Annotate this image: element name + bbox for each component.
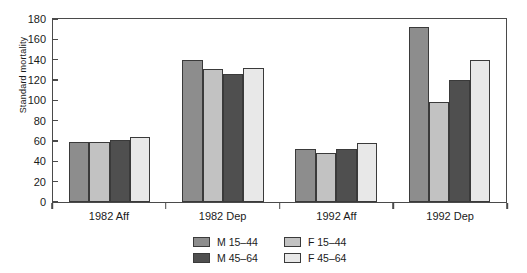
plot-area: 020406080100120140160180 [52,18,507,203]
y-tick-label: 120 [28,74,53,86]
x-tick-mark [392,203,394,209]
legend-swatch [284,253,301,263]
y-tick-mark [53,181,58,183]
y-tick-label: 140 [28,54,53,66]
x-tick-mark [506,203,508,209]
bar[interactable] [429,102,449,202]
bar[interactable] [89,142,109,202]
x-tick-mark [279,203,281,209]
legend-label: F 15–44 [308,236,347,248]
legend-label: M 45–64 [217,252,258,264]
bar[interactable] [243,68,263,202]
x-axis-ticks [52,203,507,210]
y-tick-mark [53,120,58,122]
y-tick-mark [53,100,58,102]
bar[interactable] [203,69,223,202]
bar[interactable] [110,140,130,202]
y-tick-label: 60 [34,135,53,147]
bar[interactable] [357,143,377,202]
bar[interactable] [69,142,89,202]
legend-swatch [193,253,210,263]
y-tick-mark [53,39,58,41]
bar-group [393,19,506,202]
y-tick-label: 160 [28,33,53,45]
y-tick-label: 20 [34,176,53,188]
y-tick-label: 100 [28,94,53,106]
y-tick-mark [53,161,58,163]
x-tick-mark [51,203,53,209]
y-axis-title: Standard mortality [18,0,28,150]
legend-label: F 45–64 [308,252,347,264]
y-tick-mark [53,18,58,20]
bar[interactable] [223,74,243,202]
bar-groups [53,19,506,202]
x-tick-label: 1992 Aff [280,210,394,222]
y-tick-label: 80 [34,115,53,127]
bar[interactable] [316,153,336,202]
legend-swatch [284,237,301,247]
bar[interactable] [130,137,150,202]
y-tick-mark [53,140,58,142]
legend-label: M 15–44 [217,236,258,248]
legend-item[interactable]: M 15–44 [193,236,258,248]
chart-legend: M 15–44M 45–64F 15–44F 45–64 [193,236,346,264]
bar-group [53,19,166,202]
y-tick-mark [53,59,58,61]
bar[interactable] [409,27,429,202]
x-axis-labels: 1982 Aff1982 Dep1992 Aff1992 Dep [52,210,507,222]
bar-group [280,19,393,202]
x-tick-label: 1982 Aff [52,210,166,222]
legend-column: M 15–44M 45–64 [193,236,258,264]
bar-group [166,19,279,202]
legend-item[interactable]: F 15–44 [284,236,347,248]
bar[interactable] [336,149,356,202]
legend-column: F 15–44F 45–64 [284,236,347,264]
y-tick-mark [53,79,58,81]
y-tick-label: 180 [28,13,53,25]
bar-chart: Standard mortality 020406080100120140160… [0,0,527,273]
bar[interactable] [295,149,315,202]
bar[interactable] [449,80,469,202]
legend-item[interactable]: F 45–64 [284,252,347,264]
legend-item[interactable]: M 45–64 [193,252,258,264]
legend-swatch [193,237,210,247]
bar[interactable] [182,60,202,202]
x-tick-label: 1992 Dep [393,210,507,222]
x-tick-mark [165,203,167,209]
x-tick-label: 1982 Dep [166,210,280,222]
y-tick-label: 40 [34,155,53,167]
bar[interactable] [470,60,490,202]
